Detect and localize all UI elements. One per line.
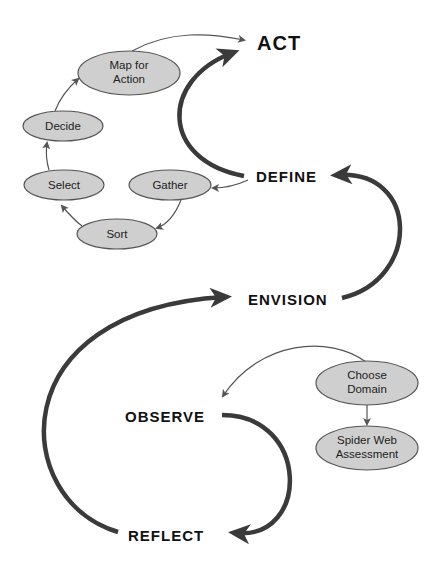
node-label: Decide — [45, 120, 81, 132]
node-label: Domain — [347, 383, 387, 395]
node-gather: Gather — [129, 170, 211, 200]
node-label: Spider Web — [337, 434, 397, 446]
arrow-envision-to-define — [338, 175, 400, 298]
cycle-diagram: Map for Action Decide Select Gather Sort… — [0, 0, 442, 577]
arrow-select-to-decide — [46, 143, 49, 170]
stage-observe: OBSERVE — [125, 408, 205, 425]
arrow-map-to-act — [132, 35, 244, 51]
node-label: Assessment — [336, 448, 399, 460]
stage-act: ACT — [257, 32, 301, 54]
node-map-for-action: Map for Action — [78, 51, 180, 95]
node-sort: Sort — [77, 219, 157, 249]
node-label: Gather — [152, 179, 187, 191]
node-label: Action — [113, 73, 145, 85]
arrow-define-to-act — [179, 53, 244, 176]
node-label: Choose — [347, 369, 387, 381]
arrow-define-to-gather — [213, 180, 248, 188]
node-label: Select — [48, 179, 81, 191]
stage-envision: ENVISION — [248, 291, 328, 308]
node-spider-web-assessment: Spider Web Assessment — [316, 426, 418, 470]
arrow-gather-to-sort — [157, 200, 181, 228]
stage-reflect: REFLECT — [128, 527, 204, 544]
arrow-observe-to-reflect — [222, 415, 290, 533]
node-choose-domain: Choose Domain — [316, 361, 418, 405]
stage-define: DEFINE — [256, 168, 317, 185]
arrow-sort-to-select — [62, 206, 82, 226]
arrow-decide-to-map — [55, 79, 78, 111]
node-select: Select — [24, 170, 104, 200]
node-label: Sort — [106, 228, 128, 240]
node-decide: Decide — [23, 111, 103, 141]
node-label: Map for — [110, 59, 149, 71]
